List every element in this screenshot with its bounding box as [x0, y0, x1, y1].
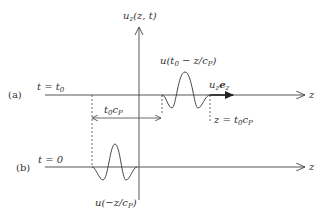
- wave-propagation-diagram: uz(z, t) (a) t = t0 z u(t0 − z/cP) uzez …: [0, 0, 329, 219]
- z-axis-b-label: z: [308, 161, 315, 172]
- panel-a-tag: (a): [8, 89, 22, 100]
- vertical-axis: uz(z, t): [123, 10, 157, 200]
- velocity-label: uzez: [209, 79, 230, 92]
- panel-b-time-label: t = 0: [38, 154, 64, 165]
- panel-a-time-label: t = t0: [37, 81, 65, 94]
- position-label: z = t0cP: [213, 114, 253, 127]
- vertical-axis-label: uz(z, t): [123, 10, 157, 23]
- panel-b: (b) t = 0 z u(−z/cP): [16, 144, 315, 210]
- pulse-a-label: u(t0 − z/cP): [160, 55, 217, 68]
- pulse-b: [92, 144, 137, 180]
- pulse-b-label: u(−z/cP): [95, 197, 137, 210]
- z-axis-a-label: z: [308, 89, 315, 100]
- panel-a: (a) t = t0 z u(t0 − z/cP) uzez t0cP z = …: [8, 55, 315, 167]
- distance-label: t0cP: [104, 104, 123, 117]
- panel-b-tag: (b): [16, 162, 30, 173]
- pulse-a: [162, 72, 210, 108]
